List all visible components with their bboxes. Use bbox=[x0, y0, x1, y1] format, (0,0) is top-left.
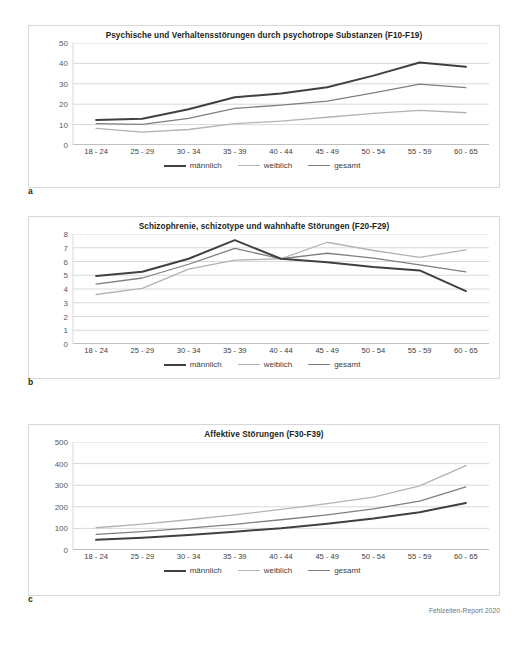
y-tick-label: 3 bbox=[64, 298, 68, 307]
panel-letter-b: b bbox=[28, 377, 33, 387]
y-tick-label: 10 bbox=[59, 120, 68, 129]
chart-title-b: Schizophrenie, schizotype und wahnhafte … bbox=[29, 222, 499, 232]
legend-item-männlich: männlich bbox=[164, 161, 222, 170]
x-tick-label: 45 - 49 bbox=[315, 147, 339, 156]
y-tick-label: 0 bbox=[64, 546, 68, 555]
y-tick-label: 0 bbox=[64, 141, 68, 150]
legend-swatch-icon bbox=[164, 165, 186, 167]
x-tick-label: 40 - 44 bbox=[269, 346, 293, 355]
x-tick-label: 25 - 29 bbox=[131, 346, 155, 355]
legend-item-weiblich: weiblich bbox=[238, 360, 292, 369]
x-tick-label: 55 - 59 bbox=[408, 346, 432, 355]
legend-label: weiblich bbox=[264, 161, 292, 170]
x-tick-label: 45 - 49 bbox=[315, 346, 339, 355]
legend-swatch-icon bbox=[238, 165, 260, 166]
chart-panel-a: Psychische und Verhaltensstörungen durch… bbox=[28, 25, 500, 188]
legend-item-gesamt: gesamt bbox=[308, 161, 360, 170]
plot-area-a: 01020304050 bbox=[37, 43, 487, 145]
y-tick-label: 400 bbox=[55, 459, 68, 468]
x-tick-label: 18 - 24 bbox=[84, 147, 108, 156]
y-tick-label: 20 bbox=[59, 100, 68, 109]
figure-page: Psychische und Verhaltensstörungen durch… bbox=[0, 0, 528, 655]
x-axis-labels-b: 18 - 2425 - 2930 - 3435 - 3940 - 4445 - … bbox=[73, 344, 489, 358]
legend-swatch-icon bbox=[308, 364, 330, 365]
legend-b: männlichweiblichgesamt bbox=[37, 360, 487, 369]
plot-wrapper-c: 0100200300400500 18 - 2425 - 2930 - 3435… bbox=[37, 442, 487, 575]
y-tick-label: 8 bbox=[64, 230, 68, 239]
legend-swatch-icon bbox=[238, 570, 260, 571]
y-tick-label: 40 bbox=[59, 59, 68, 68]
x-tick-label: 55 - 59 bbox=[408, 552, 432, 561]
legend-swatch-icon bbox=[308, 570, 330, 571]
y-tick-label: 0 bbox=[64, 340, 68, 349]
plot-svg-c bbox=[37, 442, 489, 550]
series-line-männlich bbox=[96, 503, 466, 540]
x-tick-label: 60 - 65 bbox=[454, 552, 478, 561]
chart-panel-c: Affektive Störungen (F30-F39) 0100200300… bbox=[28, 424, 500, 596]
legend-item-weiblich: weiblich bbox=[238, 161, 292, 170]
x-tick-label: 50 - 54 bbox=[362, 147, 386, 156]
y-tick-label: 5 bbox=[64, 271, 68, 280]
legend-label: männlich bbox=[190, 360, 222, 369]
panel-letter-c: c bbox=[28, 594, 33, 604]
x-axis-labels-c: 18 - 2425 - 2930 - 3435 - 3940 - 4445 - … bbox=[73, 550, 489, 564]
x-tick-label: 30 - 34 bbox=[177, 147, 201, 156]
chart-title-a: Psychische und Verhaltensstörungen durch… bbox=[29, 31, 499, 41]
y-tick-label: 4 bbox=[64, 285, 68, 294]
x-tick-label: 35 - 39 bbox=[223, 147, 247, 156]
plot-wrapper-b: 012345678 18 - 2425 - 2930 - 3435 - 3940… bbox=[37, 234, 487, 369]
x-tick-label: 35 - 39 bbox=[223, 346, 247, 355]
y-tick-label: 6 bbox=[64, 257, 68, 266]
series-line-weiblich bbox=[96, 466, 466, 528]
legend-label: gesamt bbox=[334, 360, 360, 369]
y-tick-label: 300 bbox=[55, 481, 68, 490]
legend-item-männlich: männlich bbox=[164, 360, 222, 369]
x-tick-label: 50 - 54 bbox=[362, 346, 386, 355]
legend-a: männlichweiblichgesamt bbox=[37, 161, 487, 170]
legend-item-gesamt: gesamt bbox=[308, 360, 360, 369]
plot-svg-a bbox=[37, 43, 489, 145]
plot-area-b: 012345678 bbox=[37, 234, 487, 344]
legend-swatch-icon bbox=[238, 364, 260, 365]
y-tick-label: 100 bbox=[55, 524, 68, 533]
x-tick-label: 55 - 59 bbox=[408, 147, 432, 156]
legend-label: gesamt bbox=[334, 566, 360, 575]
x-tick-label: 18 - 24 bbox=[84, 346, 108, 355]
plot-svg-b bbox=[37, 234, 489, 344]
source-note: Fehlzeiten-Report 2020 bbox=[429, 607, 500, 614]
legend-item-weiblich: weiblich bbox=[238, 566, 292, 575]
x-tick-label: 30 - 34 bbox=[177, 346, 201, 355]
y-tick-label: 7 bbox=[64, 243, 68, 252]
x-tick-label: 40 - 44 bbox=[269, 552, 293, 561]
x-tick-label: 50 - 54 bbox=[362, 552, 386, 561]
x-tick-label: 25 - 29 bbox=[131, 147, 155, 156]
y-tick-label: 1 bbox=[64, 326, 68, 335]
legend-item-gesamt: gesamt bbox=[308, 566, 360, 575]
legend-swatch-icon bbox=[164, 364, 186, 366]
legend-label: weiblich bbox=[264, 566, 292, 575]
panel-letter-a: a bbox=[28, 186, 33, 196]
legend-swatch-icon bbox=[308, 165, 330, 166]
legend-label: weiblich bbox=[264, 360, 292, 369]
plot-wrapper-a: 01020304050 18 - 2425 - 2930 - 3435 - 39… bbox=[37, 43, 487, 170]
plot-area-c: 0100200300400500 bbox=[37, 442, 487, 550]
y-axis-labels-a: 01020304050 bbox=[37, 43, 71, 145]
x-axis-labels-a: 18 - 2425 - 2930 - 3435 - 3940 - 4445 - … bbox=[73, 145, 489, 159]
legend-swatch-icon bbox=[164, 570, 186, 572]
chart-panel-b: Schizophrenie, schizotype und wahnhafte … bbox=[28, 216, 500, 379]
x-tick-label: 60 - 65 bbox=[454, 346, 478, 355]
x-tick-label: 45 - 49 bbox=[315, 552, 339, 561]
y-tick-label: 50 bbox=[59, 39, 68, 48]
y-tick-label: 500 bbox=[55, 438, 68, 447]
x-tick-label: 40 - 44 bbox=[269, 147, 293, 156]
x-tick-label: 35 - 39 bbox=[223, 552, 247, 561]
y-axis-labels-c: 0100200300400500 bbox=[37, 442, 71, 550]
legend-label: männlich bbox=[190, 566, 222, 575]
legend-item-männlich: männlich bbox=[164, 566, 222, 575]
legend-c: männlichweiblichgesamt bbox=[37, 566, 487, 575]
x-tick-label: 60 - 65 bbox=[454, 147, 478, 156]
series-line-weiblich bbox=[96, 110, 466, 132]
y-tick-label: 200 bbox=[55, 502, 68, 511]
legend-label: männlich bbox=[190, 161, 222, 170]
y-axis-labels-b: 012345678 bbox=[37, 234, 71, 344]
